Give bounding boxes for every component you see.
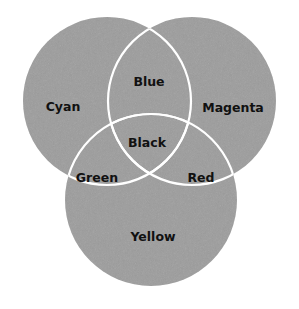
label-magenta: Magenta — [202, 100, 264, 115]
label-cyan: Cyan — [46, 99, 81, 114]
label-black: Black — [128, 135, 167, 150]
circle-fills — [23, 17, 276, 286]
label-yellow: Yellow — [129, 229, 176, 244]
cmyk-venn-diagram: Cyan Blue Magenta Black Green Red Yellow — [0, 0, 299, 309]
label-green: Green — [76, 170, 118, 185]
label-blue: Blue — [133, 74, 164, 89]
label-red: Red — [187, 170, 214, 185]
